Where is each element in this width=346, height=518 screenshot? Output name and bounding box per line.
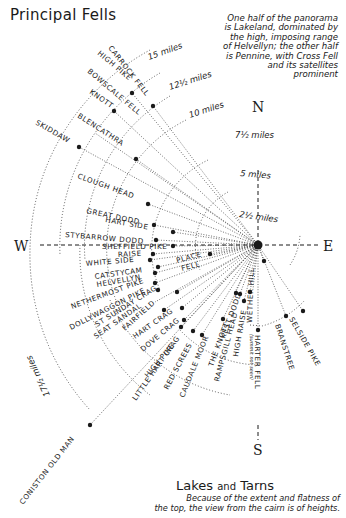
compass-south: S (253, 442, 263, 458)
distance-label-5: 5 miles (240, 168, 272, 181)
compass-west: W (14, 238, 29, 254)
fell-label: CLOUGH HEAD (76, 171, 135, 200)
distance-label-7-5: 7½ miles (235, 130, 275, 140)
fell-label-note: (summit not seen) (249, 334, 255, 380)
distance-label-12-5: 12½ miles (168, 68, 214, 91)
lakes-section-title: Lakes and Tarns (176, 478, 274, 493)
fell-label: BRANSTREE (273, 323, 297, 372)
lakes-note: Because of the extent and flatness of th… (80, 494, 340, 513)
fell-label: SKIDDAW (34, 118, 72, 145)
distance-label-15: 15 miles (146, 40, 184, 62)
distance-label-17-5: 17½ miles (24, 353, 52, 398)
compass-north: N (252, 99, 264, 115)
fell-label: WHITE SIDE (85, 255, 134, 268)
distance-label-10: 10 miles (188, 99, 226, 120)
distance-label-2-5: 2½ miles (239, 209, 280, 224)
fell-label: CONISTON OLD MAN (17, 434, 76, 506)
panorama-diagram: N W E S 2½ miles 5 miles 7½ miles 10 mil… (0, 0, 346, 518)
fell-label: BLENCATHRA (76, 111, 126, 148)
fell-label: WETHER HILL (245, 267, 256, 323)
compass-east: E (323, 238, 333, 254)
summit-cairn-marker (254, 241, 263, 250)
